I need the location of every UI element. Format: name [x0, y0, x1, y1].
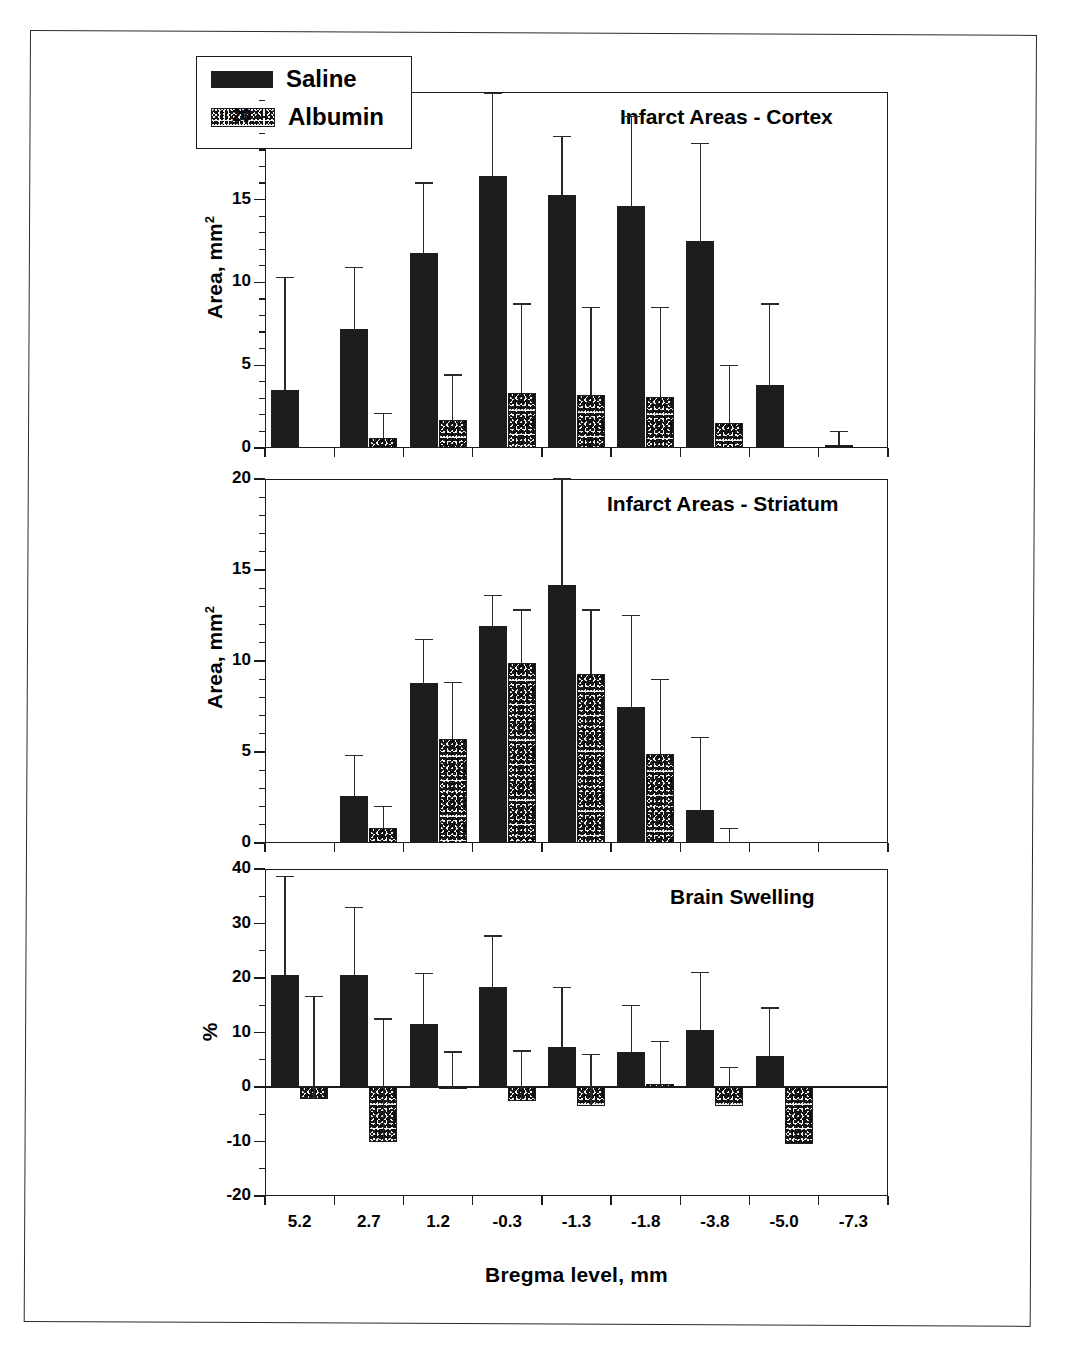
error-bar-saline-swelling-5	[631, 1005, 632, 1051]
error-bar-saline-cortex-6	[700, 143, 701, 241]
x-tick-striatum	[818, 843, 819, 852]
error-cap-albumin-striatum-2	[444, 682, 462, 683]
error-cap-saline-swelling-0	[276, 876, 294, 877]
error-bar-saline-striatum-1	[354, 756, 355, 796]
y-tick-swelling	[254, 977, 265, 978]
y-tick-swelling	[254, 923, 265, 924]
y-minor-tick-cortex	[259, 133, 265, 134]
y-tick-label-striatum: 10	[193, 650, 251, 670]
x-tick-striatum	[749, 843, 750, 852]
error-cap-saline-swelling-1	[345, 907, 363, 908]
y-tick-label-swelling: 0	[193, 1076, 251, 1096]
bar-albumin-striatum-2	[439, 739, 467, 843]
error-bar-saline-cortex-0	[284, 277, 285, 390]
y-tick-swelling	[254, 868, 265, 869]
x-tick-cortex	[749, 448, 750, 457]
error-bar-albumin-striatum-1	[383, 807, 384, 829]
error-cap-albumin-cortex-6	[720, 365, 738, 366]
error-cap-albumin-striatum-4	[582, 609, 600, 610]
y-tick-label-cortex: 0	[193, 437, 251, 457]
bar-saline-swelling-5	[617, 1052, 645, 1087]
y-minor-tick-striatum	[259, 770, 265, 771]
error-cap-saline-cortex-6	[691, 143, 709, 144]
bar-saline-swelling-6	[686, 1030, 714, 1087]
error-bar-albumin-swelling-6	[729, 1067, 730, 1106]
x-tick-swelling	[887, 1196, 888, 1205]
y-tick-cortex	[254, 365, 265, 366]
error-cap-saline-swelling-4	[553, 987, 571, 988]
bar-saline-striatum-5	[617, 707, 645, 844]
bar-albumin-cortex-4	[577, 395, 605, 448]
error-cap-albumin-cortex-4	[582, 307, 600, 308]
bar-saline-striatum-3	[479, 626, 507, 843]
bar-saline-cortex-2	[410, 253, 438, 448]
x-tick-swelling	[818, 1196, 819, 1205]
error-cap-saline-cortex-8	[830, 431, 848, 432]
bar-saline-cortex-1	[340, 329, 368, 448]
error-cap-albumin-swelling-5	[651, 1041, 669, 1042]
error-bar-albumin-cortex-5	[660, 307, 661, 396]
bar-albumin-cortex-2	[439, 420, 467, 448]
x-tick-label-5: -1.8	[606, 1212, 686, 1232]
y-tick-striatum	[254, 478, 265, 479]
bar-saline-cortex-6	[686, 241, 714, 448]
error-cap-albumin-cortex-5	[651, 307, 669, 308]
y-tick-label-cortex: 20	[193, 106, 251, 126]
error-bar-saline-striatum-2	[423, 639, 424, 683]
bar-saline-striatum-2	[410, 683, 438, 843]
y-minor-tick-swelling	[259, 950, 265, 951]
bar-albumin-cortex-6	[715, 423, 743, 448]
bar-albumin-cortex-3	[508, 393, 536, 448]
error-bar-albumin-swelling-1	[383, 1019, 384, 1142]
x-tick-striatum	[610, 843, 611, 852]
error-cap-saline-cortex-1	[345, 267, 363, 268]
y-minor-tick-striatum	[259, 624, 265, 625]
error-cap-saline-cortex-7	[761, 303, 779, 304]
y-minor-tick-swelling	[259, 1059, 265, 1060]
bar-saline-cortex-0	[271, 390, 299, 448]
y-minor-tick-cortex	[259, 232, 265, 233]
error-bar-albumin-swelling-3	[521, 1051, 522, 1101]
error-cap-saline-swelling-3	[484, 935, 502, 936]
y-minor-tick-swelling	[259, 1005, 265, 1006]
y-minor-tick-cortex	[259, 265, 265, 266]
bar-saline-swelling-4	[548, 1047, 576, 1087]
error-bar-saline-cortex-8	[838, 431, 839, 444]
bar-saline-swelling-7	[756, 1056, 784, 1087]
y-minor-tick-striatum	[259, 733, 265, 734]
x-axis-title: Bregma level, mm	[265, 1263, 888, 1287]
error-cap-saline-cortex-4	[553, 136, 571, 137]
error-cap-albumin-swelling-6	[720, 1067, 738, 1068]
x-tick-label-7: -5.0	[744, 1212, 824, 1232]
y-minor-tick-swelling	[259, 896, 265, 897]
y-minor-tick-cortex	[259, 331, 265, 332]
error-bar-albumin-striatum-2	[452, 683, 453, 739]
legend-swatch-saline-icon	[211, 71, 273, 88]
y-minor-tick-cortex	[259, 149, 265, 150]
x-tick-cortex	[472, 448, 473, 457]
y-minor-tick-cortex	[259, 216, 265, 217]
legend: Saline Albumin	[196, 56, 412, 149]
y-tick-label-swelling: 20	[193, 967, 251, 987]
y-minor-tick-cortex	[259, 431, 265, 432]
bar-saline-swelling-0	[271, 975, 299, 1087]
bar-albumin-striatum-5	[646, 754, 674, 843]
x-tick-striatum	[334, 843, 335, 852]
error-bar-saline-swelling-4	[561, 987, 562, 1046]
x-tick-cortex	[818, 448, 819, 457]
error-bar-albumin-striatum-4	[590, 610, 591, 674]
error-bar-saline-cortex-2	[423, 183, 424, 253]
y-tick-label-swelling: -20	[193, 1185, 251, 1205]
bar-saline-swelling-1	[340, 975, 368, 1087]
y-tick-label-swelling: 10	[193, 1022, 251, 1042]
error-bar-saline-cortex-4	[561, 137, 562, 195]
bar-saline-cortex-7	[756, 385, 784, 448]
y-minor-tick-cortex	[259, 381, 265, 382]
x-tick-swelling	[472, 1196, 473, 1205]
error-cap-saline-swelling-2	[415, 973, 433, 974]
y-tick-swelling	[254, 1086, 265, 1087]
error-bar-saline-swelling-6	[700, 973, 701, 1030]
legend-label-albumin: Albumin	[288, 105, 384, 129]
error-bar-saline-swelling-1	[354, 907, 355, 975]
y-tick-cortex	[254, 282, 265, 283]
